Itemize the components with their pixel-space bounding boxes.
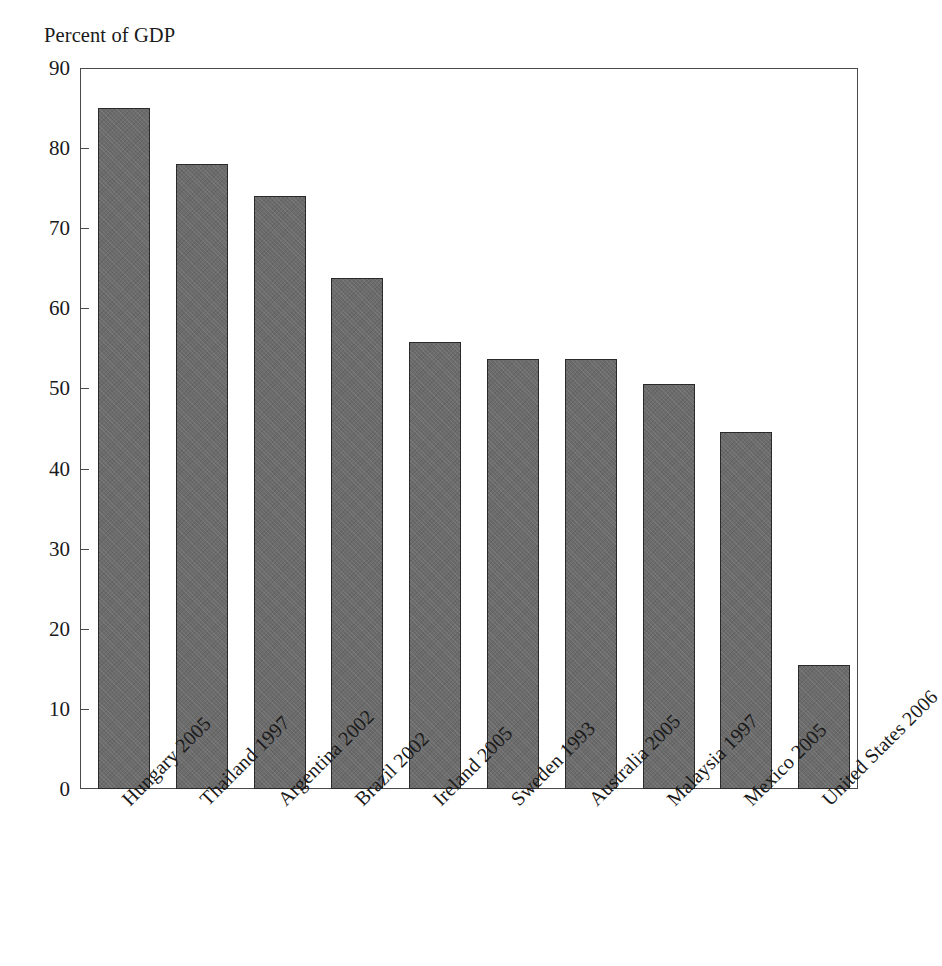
y-axis-tick-label: 90 [49, 58, 70, 79]
y-axis-tick-label: 50 [49, 378, 70, 399]
y-axis-tick-label: 40 [49, 458, 70, 479]
y-axis-tick-label: 30 [49, 538, 70, 559]
y-axis-tick [80, 228, 89, 229]
bar [409, 342, 461, 789]
y-axis-tick [80, 469, 89, 470]
y-axis-tick-label: 70 [49, 218, 70, 239]
y-axis-tick-label: 20 [49, 618, 70, 639]
plot-area: 0102030405060708090 [80, 68, 858, 789]
y-axis-tick [80, 549, 89, 550]
y-axis-tick-label: 0 [60, 779, 71, 800]
y-axis-tick [80, 308, 89, 309]
y-axis-tick [80, 709, 89, 710]
y-axis-tick [80, 148, 89, 149]
y-axis-tick [80, 629, 89, 630]
y-axis-tick-label: 80 [49, 138, 70, 159]
bar [254, 196, 306, 789]
y-axis-caption: Percent of GDP [44, 24, 175, 47]
bar [487, 359, 539, 789]
y-axis-tick-label: 10 [49, 698, 70, 719]
clipped-header-text [44, 0, 564, 8]
bar [176, 164, 228, 789]
y-axis-tick [80, 388, 89, 389]
bar [98, 108, 150, 789]
y-axis-tick-label: 60 [49, 298, 70, 319]
